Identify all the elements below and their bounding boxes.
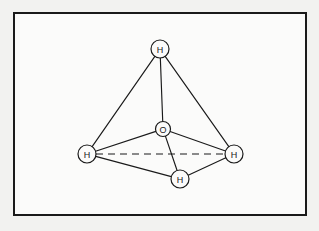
atom-h-top-label: H — [157, 45, 164, 55]
atom-h-bottom: H — [171, 170, 189, 188]
bond-h-left-h-bottom — [96, 156, 172, 176]
atom-h-right-label: H — [231, 150, 238, 160]
atom-h-top: H — [151, 40, 169, 58]
bond-h-right-h-bottom — [188, 158, 226, 175]
atom-o-center-label: O — [159, 125, 166, 135]
atom-h-left-label: H — [84, 150, 91, 160]
figure-frame-border: HOHHH — [13, 12, 307, 216]
bond-h-top-h-left — [92, 56, 155, 146]
bond-o-h-right — [170, 131, 225, 151]
atom-h-left: H — [78, 145, 96, 163]
bond-h-top-o — [160, 58, 162, 122]
molecule-diagram: HOHHH — [15, 14, 307, 216]
figure-root: HOHHH — [0, 0, 319, 231]
bond-o-h-bottom — [165, 136, 177, 170]
bond-o-h-left — [96, 131, 156, 151]
atom-o-center: O — [156, 122, 171, 137]
atom-h-bottom-label: H — [177, 175, 184, 185]
atom-h-right: H — [225, 145, 243, 163]
bond-layer — [92, 56, 229, 176]
